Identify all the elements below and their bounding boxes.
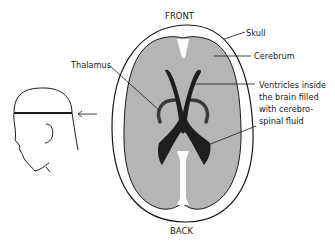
back-label: BACK bbox=[170, 226, 193, 236]
face-profile bbox=[14, 113, 50, 172]
ear bbox=[45, 124, 53, 143]
front-label: FRONT bbox=[165, 11, 194, 21]
ventricles-label-line2: the brain filled bbox=[259, 92, 319, 102]
head-inset bbox=[14, 88, 78, 172]
ventricles-label-line4: spinal fluid bbox=[259, 116, 304, 126]
head-outline bbox=[14, 88, 78, 150]
skull-label: Skull bbox=[246, 28, 265, 38]
skull-leader bbox=[224, 32, 245, 39]
ventricles-label-line3: with cerebro- bbox=[259, 104, 313, 114]
thalamus-label: Thalamus bbox=[71, 60, 111, 70]
ventricles-label-line1: Ventricles inside bbox=[259, 80, 326, 90]
cerebrum-label: Cerebrum bbox=[254, 51, 295, 61]
left-arrow-icon bbox=[78, 111, 97, 117]
